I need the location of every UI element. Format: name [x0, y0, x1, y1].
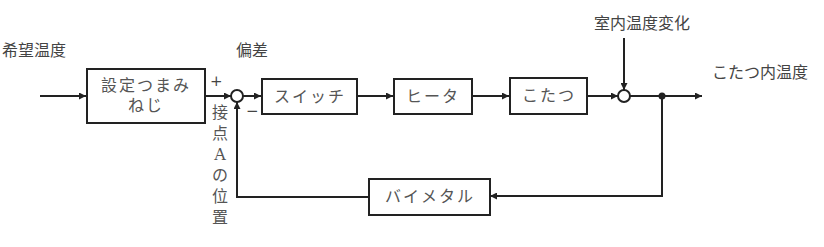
minus-sign: − — [246, 102, 259, 120]
output-label: こたつ内温度 — [712, 64, 808, 82]
branch-point — [659, 93, 666, 100]
disturbance-label: 室内温度変化 — [594, 15, 690, 33]
summing-junction-error — [231, 90, 243, 102]
contact-char: 接 — [210, 102, 230, 123]
bimetal-block: バイメタル — [368, 178, 491, 216]
contact-char: A — [210, 144, 230, 165]
setting-knob-line1: 設定つまみ — [101, 76, 191, 96]
contact-char: の — [210, 165, 230, 186]
input-label: 希望温度 — [2, 42, 66, 60]
contact-char: 点 — [210, 123, 230, 144]
error-label: 偏差 — [236, 42, 268, 60]
summing-junction-disturbance — [618, 90, 630, 102]
contact-position-label: 接 点 A の 位 置 — [210, 102, 230, 228]
switch-label: スイッチ — [274, 87, 346, 107]
setting-knob-block: 設定つまみ ねじ — [86, 68, 206, 124]
kotatsu-block: こたつ — [509, 77, 588, 115]
bimetal-label: バイメタル — [385, 187, 475, 207]
heater-block: ヒータ — [393, 78, 473, 115]
kotatsu-label: こたつ — [522, 86, 576, 106]
setting-knob-line2: ねじ — [128, 96, 164, 116]
contact-char: 置 — [210, 207, 230, 228]
heater-label: ヒータ — [406, 87, 460, 107]
contact-char: 位 — [210, 186, 230, 207]
switch-block: スイッチ — [261, 78, 358, 115]
plus-sign: + — [210, 72, 223, 90]
